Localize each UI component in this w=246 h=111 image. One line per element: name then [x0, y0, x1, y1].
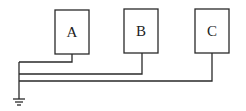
- box-a-label: A: [67, 24, 78, 40]
- box-b-label: B: [136, 23, 146, 39]
- wire-a: [19, 54, 72, 62]
- box-c-label: C: [207, 23, 217, 39]
- wire-c: [19, 53, 212, 81]
- grounding-diagram: A B C: [0, 0, 246, 111]
- wire-b: [19, 53, 142, 74]
- ground-icon: [13, 99, 25, 105]
